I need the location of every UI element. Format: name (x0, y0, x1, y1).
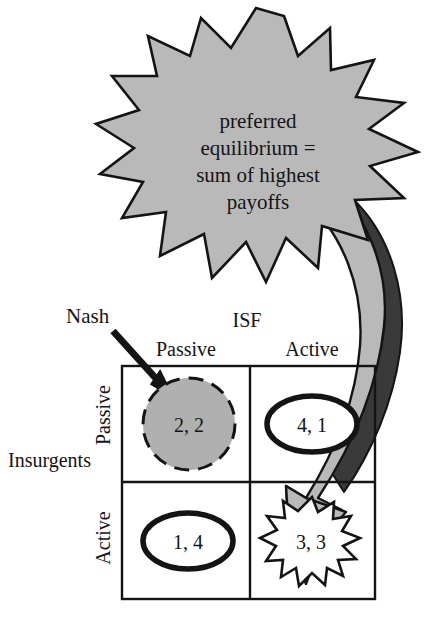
nash-arrow-shaft (113, 331, 160, 383)
payoff-value-4-1: 4, 1 (297, 414, 327, 436)
cell-passive-active: 4, 1 (267, 396, 357, 452)
callout-line-1: preferred (220, 109, 297, 133)
nash-label: Nash (66, 304, 110, 328)
callout-line-2: equilibrium = (200, 136, 315, 160)
cell-active-passive: 1, 4 (143, 513, 233, 569)
callout-line-3: sum of highest (196, 163, 320, 187)
payoff-value-2-2: 2, 2 (174, 414, 204, 436)
row-header-passive: Passive (92, 385, 114, 445)
callout-line-4: payoffs (227, 190, 290, 214)
column-header-active: Active (285, 338, 338, 360)
game-theory-diagram: preferred equilibrium = sum of highest p… (0, 0, 444, 623)
column-player-label: ISF (233, 309, 262, 331)
figure-canvas: preferred equilibrium = sum of highest p… (0, 0, 444, 623)
payoff-value-3-3: 3, 3 (296, 531, 326, 553)
column-header-passive: Passive (156, 338, 216, 360)
cell-passive-passive: 2, 2 (143, 378, 235, 470)
row-player-label: Insurgents (8, 449, 91, 472)
cell-active-active: 3, 3 (260, 497, 360, 586)
payoff-value-1-4: 1, 4 (173, 531, 203, 553)
row-header-active: Active (92, 511, 114, 564)
